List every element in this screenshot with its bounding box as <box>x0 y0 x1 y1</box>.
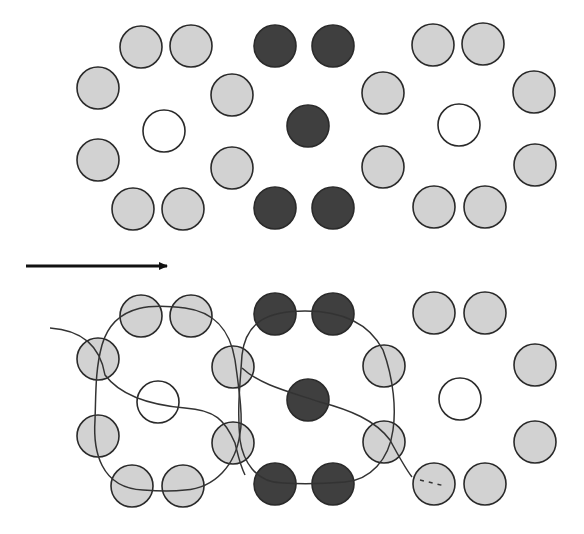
bottom-particle-light <box>120 295 162 337</box>
bottom-particle-light <box>170 295 212 337</box>
bottom-particles <box>77 292 556 507</box>
top-particle-light <box>412 24 454 66</box>
bottom-particle-light <box>77 338 119 380</box>
bottom-particle-light <box>111 465 153 507</box>
top-particle-dark <box>254 187 296 229</box>
bottom-particle-light <box>413 463 455 505</box>
top-panel-before <box>77 23 556 230</box>
bottom-particle-light <box>77 415 119 457</box>
top-particle-empty <box>438 104 480 146</box>
top-particle-light <box>77 67 119 109</box>
bottom-particle-empty <box>137 381 179 423</box>
top-particle-dark <box>312 25 354 67</box>
diagram-canvas <box>0 0 584 534</box>
top-particle-light <box>211 74 253 116</box>
top-particle-light <box>362 146 404 188</box>
bottom-particle-light <box>162 465 204 507</box>
top-particle-light <box>162 188 204 230</box>
top-particle-light <box>413 186 455 228</box>
top-particle-light <box>362 72 404 114</box>
top-particle-empty <box>143 110 185 152</box>
bottom-particle-light <box>413 292 455 334</box>
bottom-panel-after <box>50 292 556 507</box>
top-particle-dark <box>312 187 354 229</box>
bottom-particle-dark <box>287 379 329 421</box>
top-particle-light <box>464 186 506 228</box>
bottom-particle-light <box>514 344 556 386</box>
bottom-particle-light <box>464 292 506 334</box>
bottom-particle-light <box>464 463 506 505</box>
top-particle-light <box>77 139 119 181</box>
top-particle-light <box>514 144 556 186</box>
top-particle-light <box>112 188 154 230</box>
bottom-particle-empty <box>439 378 481 420</box>
top-particle-dark <box>254 25 296 67</box>
top-particle-light <box>211 147 253 189</box>
top-particle-light <box>120 26 162 68</box>
top-particle-light <box>513 71 555 113</box>
top-particle-light <box>170 25 212 67</box>
bottom-particle-light <box>514 421 556 463</box>
top-particle-dark <box>287 105 329 147</box>
top-particle-light <box>462 23 504 65</box>
